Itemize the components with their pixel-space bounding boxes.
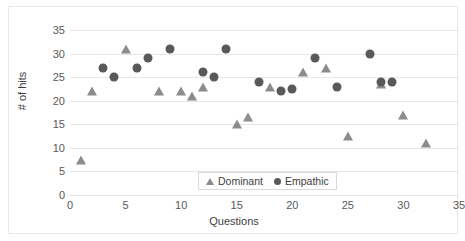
legend-item-empathic: Empathic [274, 175, 329, 187]
data-point-dominant [87, 87, 97, 96]
gridline [70, 54, 459, 55]
data-point-empathic [332, 82, 341, 91]
x-axis-title: Questions [9, 215, 459, 227]
triangle-icon [206, 178, 214, 185]
chart-frame: # of hits Questions 05101520253035 05101… [8, 6, 458, 234]
data-point-empathic [210, 73, 219, 82]
data-point-empathic [110, 73, 119, 82]
data-point-empathic [221, 44, 230, 53]
gridline [70, 195, 459, 196]
data-point-dominant [421, 139, 431, 148]
gridline [70, 148, 459, 149]
data-point-empathic [99, 63, 108, 72]
legend-item-dominant: Dominant [206, 175, 263, 187]
chart-legend: Dominant Empathic [198, 172, 337, 190]
gridline [70, 124, 459, 125]
data-point-empathic [388, 77, 397, 86]
data-point-dominant [198, 82, 208, 91]
x-axis-ticks: 05101520253035 [70, 197, 459, 215]
data-point-empathic [377, 77, 386, 86]
y-axis-ticks: 05101520253035 [15, 30, 65, 195]
gridline [70, 30, 459, 31]
y-tick-label-5: 25 [19, 71, 65, 83]
x-tick-label-7: 35 [453, 199, 465, 211]
data-point-dominant [176, 87, 186, 96]
data-point-dominant [121, 44, 131, 53]
data-point-empathic [366, 49, 375, 58]
legend-label-dominant: Dominant [218, 175, 263, 187]
data-point-dominant [76, 155, 86, 164]
y-tick-label-4: 20 [19, 95, 65, 107]
x-tick-label-4: 20 [286, 199, 298, 211]
y-tick-label-2: 10 [19, 142, 65, 154]
data-point-empathic [199, 68, 208, 77]
data-point-empathic [254, 77, 263, 86]
data-point-empathic [143, 54, 152, 63]
data-point-empathic [166, 44, 175, 53]
scatter-chart: # of hits Questions 05101520253035 05101… [0, 0, 465, 241]
data-point-empathic [310, 54, 319, 63]
data-point-dominant [321, 63, 331, 72]
data-point-empathic [132, 63, 141, 72]
plot-area [70, 30, 459, 195]
y-tick-label-6: 30 [19, 48, 65, 60]
gridline [70, 101, 459, 102]
data-point-dominant [298, 68, 308, 77]
gridline [70, 77, 459, 78]
x-tick-label-3: 15 [231, 199, 243, 211]
data-point-dominant [398, 110, 408, 119]
data-point-dominant [187, 92, 197, 101]
circle-icon [274, 178, 281, 185]
data-point-dominant [232, 120, 242, 129]
x-tick-label-2: 10 [175, 199, 187, 211]
x-tick-label-0: 0 [67, 199, 73, 211]
y-tick-label-3: 15 [19, 118, 65, 130]
x-tick-label-5: 25 [342, 199, 354, 211]
y-tick-label-7: 35 [19, 24, 65, 36]
x-tick-label-6: 30 [397, 199, 409, 211]
data-point-dominant [154, 87, 164, 96]
data-point-empathic [288, 84, 297, 93]
data-point-empathic [277, 87, 286, 96]
data-point-dominant [343, 132, 353, 141]
data-point-dominant [265, 82, 275, 91]
x-tick-label-1: 5 [123, 199, 129, 211]
data-point-dominant [243, 113, 253, 122]
y-tick-label-1: 5 [19, 165, 65, 177]
y-tick-label-0: 0 [19, 189, 65, 201]
legend-label-empathic: Empathic [285, 175, 329, 187]
